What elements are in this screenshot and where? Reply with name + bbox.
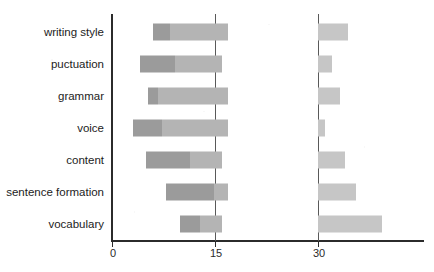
bar-segment-a [146, 152, 190, 169]
bar-row: writing style [0, 16, 434, 48]
category-label: puctuation [51, 58, 104, 70]
category-label: voice [77, 122, 104, 134]
category-label: grammar [58, 90, 104, 102]
bar-segment-c [318, 88, 340, 105]
bar-segment-a [133, 120, 162, 137]
bar-chart: 0 15 30 writing stylepuctuationgrammarvo… [0, 0, 434, 272]
bar-row: grammar [0, 80, 434, 112]
bar-segment-b [190, 152, 222, 169]
x-tick-label-15: 15 [210, 247, 222, 259]
bar-segment-a [180, 216, 200, 233]
bar-segment-c [318, 184, 356, 201]
category-label: writing style [44, 26, 104, 38]
bar-segment-b [200, 216, 222, 233]
category-label: content [66, 154, 104, 166]
bar-segment-b [175, 56, 222, 73]
bar-segment-c [318, 152, 345, 169]
bar-row: puctuation [0, 48, 434, 80]
x-tick-label-0: 0 [110, 247, 116, 259]
x-tick-label-30: 30 [313, 247, 325, 259]
bar-segment-a [140, 56, 175, 73]
bar-segment-c [318, 216, 382, 233]
bar-segment-a [153, 24, 170, 41]
bar-segment-c [318, 24, 348, 41]
bar-segment-b [214, 184, 228, 201]
category-label: vocabulary [48, 218, 104, 230]
bar-row: sentence formation [0, 176, 434, 208]
category-label: sentence formation [6, 186, 104, 198]
bar-segment-b [158, 88, 228, 105]
bar-segment-c [318, 56, 332, 73]
bar-segment-a [166, 184, 214, 201]
bar-row: vocabulary [0, 208, 434, 240]
bar-segment-a [148, 88, 158, 105]
bar-row: content [0, 144, 434, 176]
bar-row: voice [0, 112, 434, 144]
bar-segment-b [170, 24, 228, 41]
x-axis-line [111, 240, 424, 242]
bar-segment-b [162, 120, 228, 137]
bar-segment-c [318, 120, 325, 137]
